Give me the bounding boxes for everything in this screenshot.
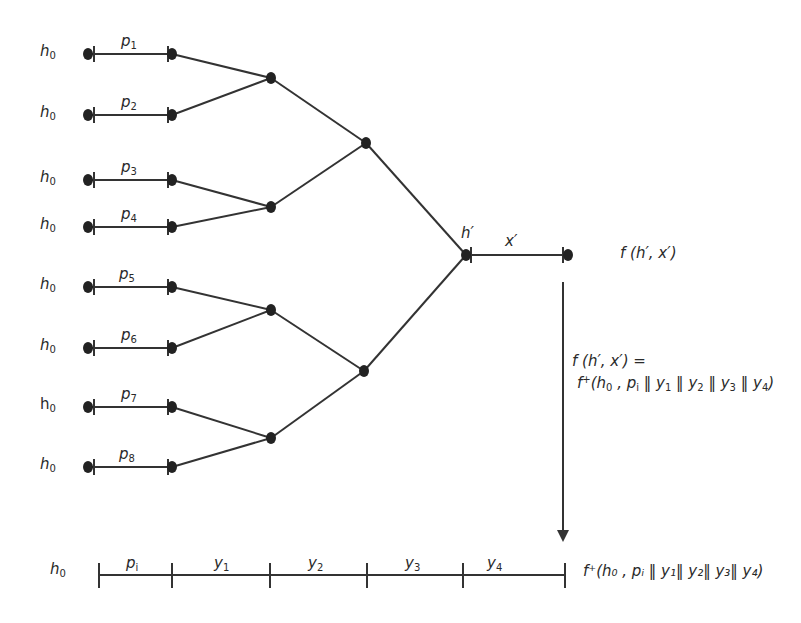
leaf-h-label: h0 (40, 170, 56, 187)
arrow-head-icon (557, 530, 569, 542)
chain-segment-label: y4 (487, 556, 502, 573)
chain-segment-label: y1 (214, 556, 229, 573)
leaf-h-label: h0 (40, 277, 56, 294)
leaf-h-label: h0 (40, 457, 56, 474)
equation-line-2: f+(h0 , pi ‖ y1 ‖ y2 ‖ y3 ‖ y4) (577, 375, 774, 393)
leaf-h-label: h0 (40, 105, 56, 122)
leaf-p-label: p4 (121, 207, 137, 224)
leaf-h-label: h0 (40, 338, 56, 355)
leaf-p-label: p2 (121, 95, 137, 112)
leaf-p-label: p8 (119, 447, 135, 464)
chain-segment-label: y3 (405, 556, 420, 573)
leaf-p-label: p3 (121, 160, 137, 177)
leaf-p-label: p5 (119, 267, 135, 284)
leaf-h-label: h0 (40, 397, 56, 414)
leaf-h-label: h0 (40, 44, 56, 61)
leaf-h-label: h0 (40, 217, 56, 234)
leaf-p-label: p1 (121, 34, 137, 51)
root-h-label: h′ (461, 226, 474, 241)
leaf-p-label: p7 (121, 387, 137, 404)
leaf-p-label: p6 (121, 328, 137, 345)
equation-line-1: f (h′, x′) = (572, 354, 646, 369)
chain-h-label: h0 (50, 562, 66, 579)
chain-segment-label: y2 (308, 556, 323, 573)
chain-segment-label: pi (126, 556, 138, 573)
output-label: f (h′, x′) (620, 246, 676, 261)
root-x-label: x′ (505, 234, 517, 249)
chain-result-label: f⁺(h₀ , pᵢ ‖ y₁‖ y₂‖ y₃‖ y₄) (583, 564, 763, 579)
